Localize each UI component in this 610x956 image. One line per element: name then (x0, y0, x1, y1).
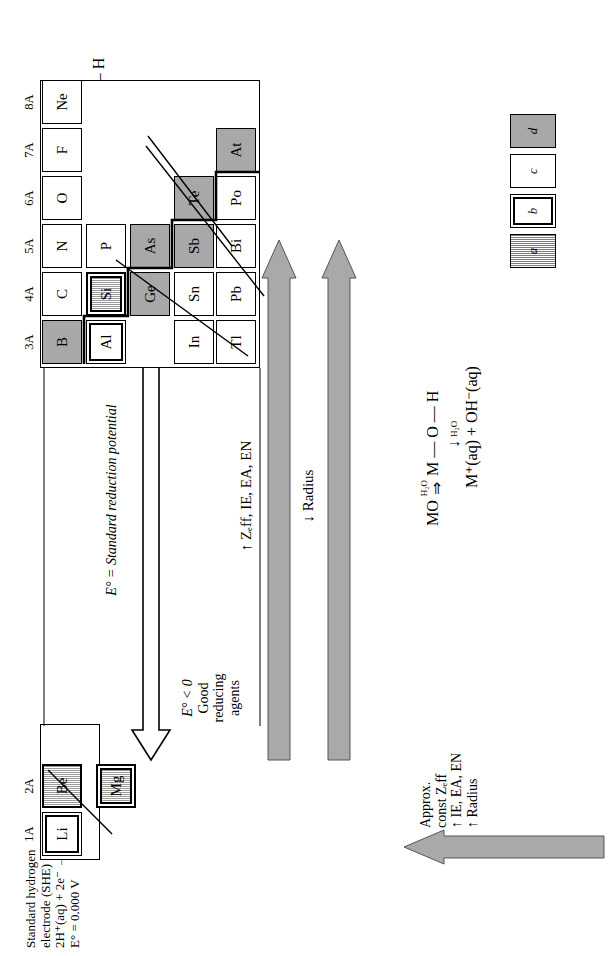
legend: a b c d (510, 88, 580, 268)
group-label-2A: 2A (22, 764, 37, 808)
group-trend-line1: Approx. (418, 678, 434, 828)
metal-oxide-line1: MO (424, 500, 442, 526)
metal-oxide-line3: M⁺(aq) + OH⁻(aq) (463, 196, 481, 488)
group-trend-line3: ↑ IE, EA, EN (449, 678, 465, 828)
group-trend-arrow (404, 830, 604, 864)
legend-swatch-d: d (510, 114, 556, 148)
table-connectors (40, 356, 300, 736)
group-trend-line4: ↑ Radius (465, 678, 481, 828)
metal-oxide-line2: M — O — H (424, 391, 442, 476)
legend-swatch-a: a (510, 234, 556, 268)
legend-swatch-b: b (510, 194, 556, 228)
radius-trend-arrow (322, 240, 356, 760)
metal-oxide-reaction: MO H₂O ⇒ M — O — H ↓ H₂O M⁺(aq) + OH⁻(aq… (420, 196, 481, 526)
left-block-slash (46, 766, 116, 836)
metal-oxide-arrow2: ↓ (445, 440, 463, 448)
periodic-trends-figure: Standard hydrogen electrode (SHE) 2H⁺(aq… (0, 0, 610, 956)
group-label-1A: 1A (22, 812, 37, 856)
group-trend-line2: const Zₑff (434, 678, 450, 828)
metal-oxide-arrow1: ⇒ (429, 480, 445, 496)
legend-swatch-c: c (510, 154, 556, 188)
metal-oxide-arrow-label2: H₂O (449, 421, 459, 437)
radius-trend-label: ↓ Radius (300, 396, 317, 596)
table-diagonal-lines (20, 66, 320, 396)
group-trend-label: Approx. const Zₑff ↑ IE, EA, EN ↑ Radius (418, 678, 481, 828)
